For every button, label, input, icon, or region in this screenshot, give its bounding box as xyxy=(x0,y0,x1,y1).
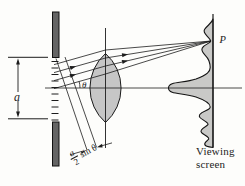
point-p-label: P xyxy=(219,34,227,45)
caption-line-1: Viewing xyxy=(196,145,235,158)
barrier-bottom xyxy=(53,122,60,166)
ray-arrowhead-icon xyxy=(122,53,128,57)
angle-label: θ xyxy=(82,80,87,90)
angle-arc xyxy=(79,81,80,88)
diffraction-intensity-pattern xyxy=(169,19,214,148)
converging-rays xyxy=(106,41,212,74)
single-slit-diffraction-diagram: a θ xyxy=(0,0,245,186)
caption-line-2: screen xyxy=(196,158,235,171)
path-difference-suffix: sin θ xyxy=(78,142,99,159)
slit-wavefront-dashes xyxy=(52,62,59,121)
slit-width-label: a xyxy=(14,90,20,104)
slit-width-dimension xyxy=(8,57,48,119)
dimension-arrowhead-icon xyxy=(97,144,103,148)
ray-arrowhead-icon xyxy=(70,66,76,70)
dimension-arrow-down xyxy=(16,112,20,118)
dimension-arrow-up xyxy=(16,59,20,65)
viewing-screen-caption: Viewing screen xyxy=(196,145,235,171)
fraction-denominator: 2 xyxy=(73,158,81,168)
barrier-top xyxy=(53,12,60,58)
ray-arrowhead-icon xyxy=(122,60,128,64)
ray-arrowhead-icon xyxy=(70,74,76,78)
